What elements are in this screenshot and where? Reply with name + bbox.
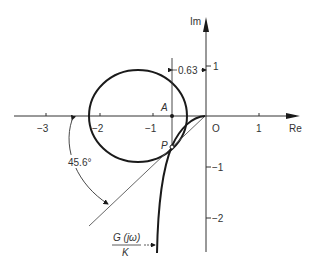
tick-im-minus2: −2 bbox=[212, 213, 224, 224]
point-p bbox=[170, 145, 174, 149]
tick-re-minus1: −1 bbox=[145, 123, 157, 134]
tick-re-minus2: −2 bbox=[92, 123, 104, 134]
imag-axis bbox=[203, 17, 211, 252]
imag-axis-arrow-icon bbox=[203, 17, 209, 32]
point-a-label: A bbox=[160, 102, 168, 113]
angle-label: 45.6° bbox=[68, 157, 91, 168]
curve-label-denominator: K bbox=[122, 247, 130, 258]
imag-axis-label: Im bbox=[190, 16, 201, 27]
point-a bbox=[170, 114, 174, 118]
dimension-0-63: 0.63 bbox=[172, 63, 206, 76]
real-axis bbox=[14, 113, 300, 119]
tick-re-origin: O bbox=[212, 123, 220, 134]
tick-re-1: 1 bbox=[256, 123, 262, 134]
curve-label-numerator: G (jω) bbox=[113, 232, 140, 243]
nyquist-diagram: −3 −2 −1 O 1 Re Im 1 −1 −2 0.63 A P 45.6… bbox=[0, 0, 316, 261]
real-axis-label: Re bbox=[289, 123, 302, 134]
tick-im-1: 1 bbox=[213, 61, 219, 72]
tick-re-minus3: −3 bbox=[37, 123, 49, 134]
tick-im-minus1: −1 bbox=[212, 162, 224, 173]
dimension-label: 0.63 bbox=[178, 65, 198, 76]
curve-label: G (jω) K bbox=[112, 232, 155, 258]
point-p-label: P bbox=[161, 140, 168, 151]
real-axis-arrow-icon bbox=[286, 113, 300, 119]
